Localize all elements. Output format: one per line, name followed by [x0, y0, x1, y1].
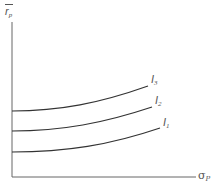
x-axis-label: σP: [198, 170, 210, 183]
curve-label-i1: I1: [163, 117, 170, 130]
curve-label-i3: I3: [151, 74, 158, 87]
diagram-canvas: [0, 0, 212, 189]
indifference-curve-i1: [12, 128, 160, 152]
y-axis-label: rp: [5, 6, 12, 19]
indifference-curve-i3: [12, 86, 148, 111]
curve-label-i2: I2: [155, 95, 162, 108]
overbar: [5, 4, 13, 5]
